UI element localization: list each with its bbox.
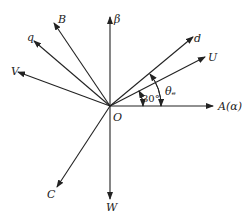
vector-V bbox=[18, 72, 110, 106]
angle-30-label: 30° bbox=[142, 93, 160, 104]
vector-label-d: d bbox=[194, 32, 201, 45]
vector-label-q: q bbox=[27, 31, 34, 44]
vector-label-beta: β bbox=[113, 13, 120, 26]
origin-label: O bbox=[113, 111, 122, 124]
vector-label-V: V bbox=[11, 65, 20, 78]
vector-label-W: W bbox=[106, 201, 119, 214]
vector-q bbox=[34, 41, 110, 106]
vector-B bbox=[54, 23, 110, 106]
angle-theta-label: θₑ bbox=[165, 85, 176, 98]
label-group: A(α)βUdBqVCW bbox=[11, 13, 242, 214]
vector-label-alpha: A(α) bbox=[217, 100, 242, 113]
vector-C bbox=[57, 106, 110, 187]
vector-label-C: C bbox=[47, 188, 56, 201]
vector-label-U: U bbox=[208, 51, 218, 64]
vector-group bbox=[18, 17, 213, 199]
vector-diagram: A(α)βUdBqVCW O 30° θₑ bbox=[0, 0, 250, 222]
vector-label-B: B bbox=[57, 13, 66, 26]
